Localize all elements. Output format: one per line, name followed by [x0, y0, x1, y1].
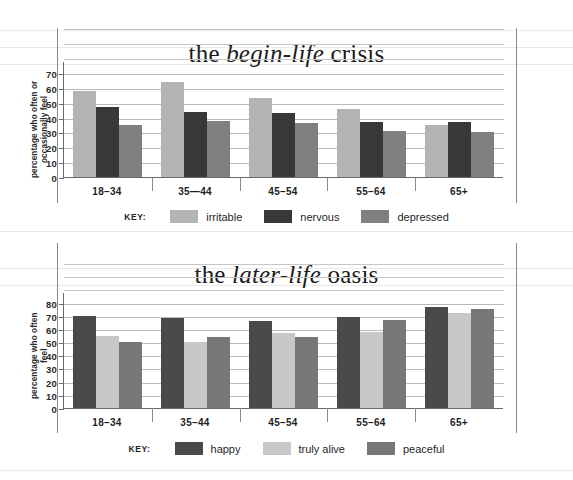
bar-truly-alive-55-64: [360, 332, 383, 408]
bar-nervous-18-34: [96, 107, 119, 177]
bar-group: [240, 62, 328, 177]
x-axis-label: 18–34: [63, 186, 151, 197]
x-axis-label: 45–54: [239, 186, 327, 197]
chart-title: the later-life oasis: [0, 261, 573, 289]
y-axis-tick-label: 70: [46, 68, 57, 79]
bar-happy-45-54: [249, 321, 272, 408]
bar-nervous-35-44: [184, 112, 207, 177]
bar-cluster: [337, 62, 406, 177]
bar-peaceful-45-54: [295, 337, 318, 408]
bar-peaceful-55-64: [383, 320, 406, 408]
plot-area: 01020304050607080: [63, 293, 503, 409]
legend-swatch: [367, 442, 395, 455]
y-axis-tick-label: 50: [46, 338, 57, 349]
x-axis-label: 18–34: [63, 417, 151, 428]
x-axis-label: 65+: [415, 417, 503, 428]
chart-title-emphasis: later-life: [232, 261, 321, 288]
bar-group: [415, 293, 503, 408]
bar-peaceful-65+: [471, 309, 494, 408]
y-axis-tick-label: 50: [46, 98, 57, 109]
legend-item-depressed[interactable]: depressed: [361, 210, 448, 223]
bar-depressed-65+: [471, 132, 494, 177]
y-axis-tick: [59, 409, 64, 410]
bar-depressed-45-54: [295, 123, 318, 177]
legend-swatch: [175, 442, 203, 455]
y-axis-tick-label: 40: [46, 351, 57, 362]
x-axis-label: 35—44: [151, 186, 239, 197]
bar-nervous-55-64: [360, 122, 383, 177]
bar-group: [64, 293, 152, 408]
legend-label: peaceful: [403, 443, 445, 455]
x-axis-label: 55–64: [327, 186, 415, 197]
y-axis-tick-label: 20: [46, 143, 57, 154]
bar-cluster: [249, 62, 318, 177]
y-axis-tick-label: 10: [46, 158, 57, 169]
y-axis-tick-label: 70: [46, 311, 57, 322]
bar-depressed-55-64: [383, 131, 406, 177]
legend-label: depressed: [397, 211, 448, 223]
y-axis-tick-label: 10: [46, 390, 57, 401]
y-axis-tick-label: 60: [46, 83, 57, 94]
bar-happy-65+: [425, 307, 448, 409]
bar-happy-55-64: [337, 317, 360, 408]
bar-cluster: [249, 293, 318, 408]
bar-irritable-18-34: [73, 91, 96, 177]
chart-title-prefix: the: [194, 261, 232, 288]
legend-item-truly-alive[interactable]: truly alive: [263, 442, 345, 455]
y-axis-tick-label: 0: [52, 173, 57, 184]
bar-peaceful-18-34: [119, 342, 142, 408]
y-axis-tick-label: 20: [46, 377, 57, 388]
chart-legend: KEY: irritablenervousdepressed: [0, 210, 573, 223]
legend-label: irritable: [206, 211, 242, 223]
bar-nervous-45-54: [272, 113, 295, 177]
bar-truly-alive-45-54: [272, 333, 295, 408]
chart-later-life-oasis: the later-life oasis percentage who ofte…: [0, 238, 573, 480]
legend-label: happy: [211, 443, 241, 455]
bar-groups: [64, 293, 503, 408]
x-axis-label: 55–64: [327, 417, 415, 428]
x-axis-labels: 18–3435—4445–5455–6465+: [63, 186, 503, 197]
bar-happy-18-34: [73, 316, 96, 408]
legend-swatch: [263, 442, 291, 455]
bar-group: [152, 293, 240, 408]
x-axis-label: 45–54: [239, 417, 327, 428]
legend-item-nervous[interactable]: nervous: [264, 210, 339, 223]
bar-truly-alive-35-44: [184, 342, 207, 408]
bar-cluster: [337, 293, 406, 408]
legend-swatch: [170, 210, 198, 223]
gridline: [64, 44, 504, 45]
x-axis-labels: 18–3435–4445–5455–6465+: [63, 417, 503, 428]
y-axis-tick: [59, 178, 64, 179]
legend-key-label: KEY:: [128, 444, 150, 454]
bar-group: [327, 62, 415, 177]
gridline: [64, 264, 504, 265]
bar-groups: [64, 62, 503, 177]
gridline: [64, 29, 504, 30]
legend-item-peaceful[interactable]: peaceful: [367, 442, 445, 455]
legend-label: truly alive: [299, 443, 345, 455]
chart-begin-life-crisis: the begin-life crisis percentage who oft…: [0, 0, 573, 238]
bar-nervous-65+: [448, 122, 471, 177]
bar-cluster: [161, 293, 230, 408]
bar-group: [152, 62, 240, 177]
legend-swatch: [264, 210, 292, 223]
gridline: [64, 59, 504, 60]
legend-item-irritable[interactable]: irritable: [170, 210, 242, 223]
bar-group: [240, 293, 328, 408]
gridline: [64, 290, 504, 291]
legend-key-label: KEY:: [124, 212, 146, 222]
y-axis-tick-label: 60: [46, 324, 57, 335]
bar-irritable-65+: [425, 125, 448, 177]
y-axis-tick-label: 0: [52, 404, 57, 415]
figure-page: the begin-life crisis percentage who oft…: [0, 0, 573, 480]
bar-truly-alive-18-34: [96, 336, 119, 409]
legend-item-happy[interactable]: happy: [175, 442, 241, 455]
bar-group: [64, 62, 152, 177]
bar-truly-alive-65+: [448, 313, 471, 408]
bar-irritable-55-64: [337, 109, 360, 177]
y-axis-tick-label: 80: [46, 298, 57, 309]
y-axis-tick-label: 30: [46, 128, 57, 139]
legend-swatch: [361, 210, 389, 223]
chart-title-suffix: oasis: [321, 261, 378, 288]
bar-cluster: [73, 293, 142, 408]
